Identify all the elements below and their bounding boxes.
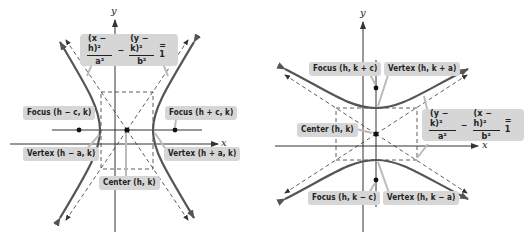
right-focus-point-top bbox=[374, 86, 379, 91]
left-focus-point-left bbox=[77, 128, 82, 133]
label-vertex-right: Vertex (h + a, k) bbox=[164, 147, 240, 161]
label-vertex-left: Vertex (h − a, k) bbox=[23, 147, 99, 161]
right-y-axis-label: y bbox=[360, 7, 366, 18]
label-vertex-bottom: Vertex (h, k − a) bbox=[383, 191, 459, 205]
right-eq-term2: (x − h)² b² bbox=[473, 109, 500, 142]
label-focus-right: Focus (h + c, k) bbox=[165, 106, 237, 120]
left-y-axis-label: y bbox=[111, 5, 117, 16]
left-focus-point-right bbox=[173, 128, 178, 133]
right-equation-box: (y − k)² a² − (x − h)² b² = 1 bbox=[422, 109, 524, 141]
label-focus-top: Focus (h, k + c) bbox=[309, 62, 381, 76]
right-center-point bbox=[373, 131, 378, 136]
left-eq-term1: (x − h)² a² bbox=[87, 34, 112, 67]
left-eq-term2: (y − k)² b² bbox=[129, 34, 154, 67]
label-vertex-top: Vertex (h, k + a) bbox=[384, 62, 460, 76]
label-focus-bottom: Focus (h, k − c) bbox=[308, 191, 380, 205]
label-center-left: Center (h, k) bbox=[99, 176, 160, 190]
right-focus-point-bottom bbox=[374, 178, 379, 183]
left-center-point bbox=[124, 127, 129, 132]
label-focus-left: Focus (h − c, k) bbox=[23, 106, 95, 120]
label-center-right: Center (h, k) bbox=[297, 123, 358, 137]
right-eq-term1: (y − k)² a² bbox=[429, 109, 456, 142]
left-equation-box: (x − h)² a² − (y − k)² b² = 1 bbox=[80, 34, 178, 66]
